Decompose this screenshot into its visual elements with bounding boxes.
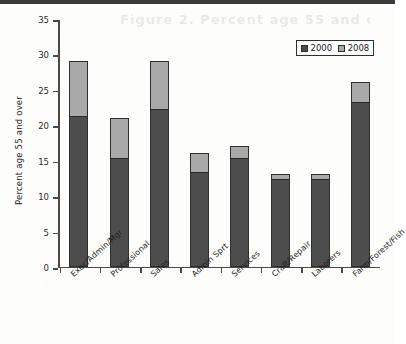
x-axis-tick — [341, 268, 343, 273]
x-axis-tick — [140, 268, 142, 273]
x-axis-tick — [100, 268, 102, 273]
y-axis-tick: 25 — [53, 91, 58, 93]
bar-segment-2000 — [70, 116, 87, 266]
page-top-rule — [0, 0, 395, 4]
y-axis-tick-label: 0 — [44, 263, 49, 273]
bar-segment-2008 — [150, 61, 169, 266]
bar-group — [230, 19, 249, 267]
bar-segment-2000 — [111, 158, 128, 265]
x-axis-tick — [60, 268, 62, 273]
bar-segment-2008 — [190, 153, 209, 266]
bar-segment-2000 — [272, 179, 289, 265]
bar-group — [69, 19, 88, 267]
y-axis-line — [58, 20, 60, 268]
bar-segment-2000 — [151, 109, 168, 266]
y-axis-tick-label: 15 — [38, 157, 49, 167]
y-axis-tick-label: 20 — [38, 121, 49, 131]
y-axis-tick: 15 — [53, 162, 58, 164]
y-axis-tick: 20 — [53, 126, 58, 128]
y-axis-tick: 30 — [53, 55, 58, 57]
x-axis-tick — [261, 268, 263, 273]
bar-segment-2008 — [351, 82, 370, 266]
x-axis-line — [58, 267, 380, 269]
bar-group — [150, 19, 169, 267]
legend-item: 2008 — [338, 43, 369, 53]
y-axis-tick-label: 5 — [44, 228, 49, 238]
x-axis-tick — [301, 268, 303, 273]
y-axis-tick-label: 35 — [38, 15, 49, 25]
y-axis-tick: 5 — [53, 233, 58, 235]
legend-item: 2000 — [301, 43, 332, 53]
bar-segment-2000 — [231, 158, 248, 265]
bar-segment-2008 — [311, 174, 330, 266]
y-axis-tick: 10 — [53, 197, 58, 199]
y-axis-tick: 35 — [53, 20, 58, 22]
y-axis-tick-label: 25 — [38, 86, 49, 96]
y-axis-tick: 0 — [53, 268, 58, 270]
chart-legend: 20002008 — [296, 40, 374, 56]
y-axis-title: Percent age 55 and over — [14, 96, 24, 205]
y-axis-tick-label: 10 — [38, 192, 49, 202]
y-axis-tick-label: 30 — [38, 50, 49, 60]
bar-segment-2008 — [69, 61, 88, 266]
bar-segment-2000 — [352, 102, 369, 266]
bar-segment-2000 — [191, 172, 208, 265]
legend-label: 2000 — [311, 43, 333, 53]
x-axis-tick — [180, 268, 182, 273]
bar-segment-2008 — [271, 174, 290, 266]
bar-group — [190, 19, 209, 267]
bar-segment-2008 — [230, 146, 249, 266]
plot-area: 05101520253035 — [58, 20, 380, 268]
legend-swatch-icon — [301, 45, 308, 52]
legend-label: 2008 — [348, 43, 370, 53]
legend-swatch-icon — [338, 45, 345, 52]
bar-segment-2000 — [312, 179, 329, 265]
bar-group — [271, 19, 290, 267]
x-axis-tick — [221, 268, 223, 273]
